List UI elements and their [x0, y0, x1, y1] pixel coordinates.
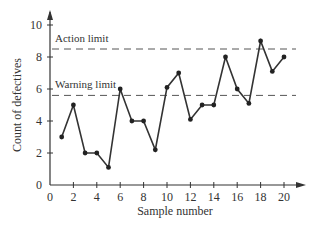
- x-axis-arrow-icon: [296, 182, 306, 188]
- x-tick-label: 18: [255, 190, 267, 204]
- data-point: [211, 103, 216, 108]
- control-chart: 024681012141618200246810 Action limitWar…: [0, 0, 320, 229]
- data-point: [188, 117, 193, 122]
- reference-line-label: Warning limit: [55, 78, 116, 90]
- data-point: [282, 55, 287, 60]
- data-point: [118, 87, 123, 92]
- data-point: [153, 147, 158, 152]
- x-tick-label: 6: [117, 190, 123, 204]
- x-tick-label: 8: [141, 190, 147, 204]
- x-axis-label: Sample number: [137, 204, 213, 218]
- data-point: [176, 71, 181, 76]
- x-tick-label: 14: [208, 190, 220, 204]
- data-point: [94, 151, 99, 156]
- data-point: [200, 103, 205, 108]
- y-tick-label: 6: [36, 82, 42, 96]
- data-point: [223, 55, 228, 60]
- x-tick-label: 12: [184, 190, 196, 204]
- x-tick-label: 20: [278, 190, 290, 204]
- y-axis-label: Count of defectives: [10, 58, 24, 152]
- data-point: [247, 101, 252, 106]
- y-tick-label: 2: [36, 146, 42, 160]
- x-tick-label: 4: [94, 190, 100, 204]
- data-point: [106, 165, 111, 170]
- y-axis-arrow-icon: [47, 10, 53, 20]
- y-tick-label: 0: [36, 178, 42, 192]
- data-point: [270, 69, 275, 74]
- reference-line-label: Action limit: [55, 32, 108, 44]
- y-tick-label: 8: [36, 50, 42, 64]
- data-series: [59, 39, 286, 170]
- x-tick-label: 2: [70, 190, 76, 204]
- data-point: [235, 87, 240, 92]
- x-tick-label: 0: [47, 190, 53, 204]
- data-point: [71, 103, 76, 108]
- y-tick-label: 4: [36, 114, 42, 128]
- data-point: [130, 119, 135, 124]
- data-point: [165, 85, 170, 90]
- ticks: 024681012141618200246810: [30, 18, 290, 204]
- data-point: [83, 151, 88, 156]
- x-tick-label: 16: [231, 190, 243, 204]
- y-tick-label: 10: [30, 18, 42, 32]
- data-point: [59, 135, 64, 140]
- x-tick-label: 10: [161, 190, 173, 204]
- data-point: [258, 39, 263, 44]
- data-point: [141, 119, 146, 124]
